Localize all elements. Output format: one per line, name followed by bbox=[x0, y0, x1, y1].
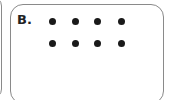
dot bbox=[49, 40, 56, 47]
dot bbox=[94, 18, 101, 25]
dot bbox=[94, 40, 101, 47]
dot-grid bbox=[0, 0, 169, 100]
dot bbox=[49, 18, 56, 25]
dot bbox=[72, 40, 79, 47]
dot bbox=[118, 18, 125, 25]
dot bbox=[118, 40, 125, 47]
dot bbox=[72, 18, 79, 25]
